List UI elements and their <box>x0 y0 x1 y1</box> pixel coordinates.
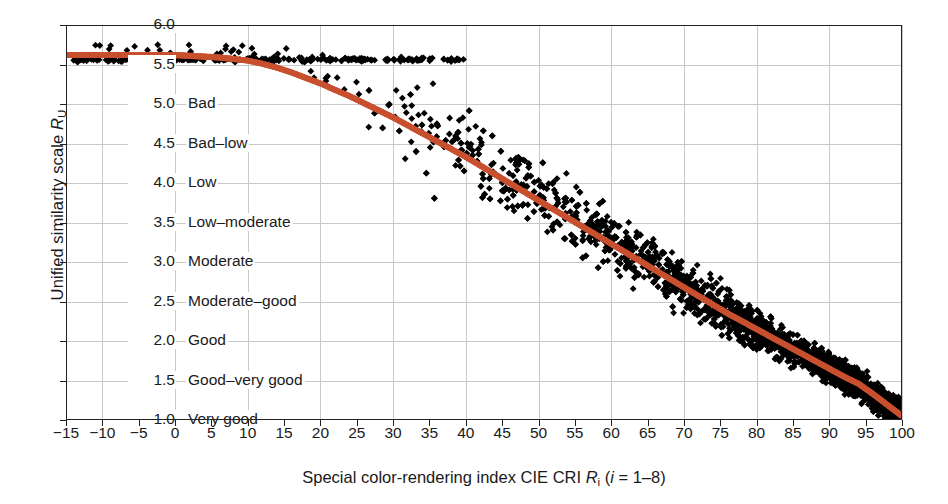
plot-area: 1.01.52.02.53.03.54.04.55.05.56.0 BadBad… <box>66 25 902 420</box>
x-axis-title-text: Special color-rendering index CIE CRI <box>302 468 585 486</box>
y-axis-title-text: Unified similarity scale <box>48 130 66 300</box>
x-axis-title: Special color-rendering index CIE CRI Ri… <box>66 468 902 492</box>
y-axis-symbol: R <box>48 118 66 130</box>
x-axis-symbol: R <box>586 468 598 486</box>
x-tick-label: 100 <box>879 424 925 442</box>
x-axis-paren-open: ( <box>600 468 610 486</box>
chart-figure: Unified similarity scale RU Special colo… <box>0 0 948 504</box>
x-axis-range: = 1–8) <box>614 468 666 486</box>
plot-frame <box>66 25 902 420</box>
vertical-gridline <box>902 25 903 420</box>
